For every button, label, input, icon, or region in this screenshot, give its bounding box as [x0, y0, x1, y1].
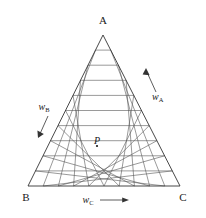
- point-label-p: P: [93, 135, 100, 146]
- axis-subscript-wc: C: [89, 199, 93, 206]
- ternary-diagram-canvas: A B C wA wB wC P: [0, 0, 206, 218]
- vertex-label-b: B: [22, 191, 29, 203]
- vertex-label-c: C: [179, 191, 186, 203]
- vertex-label-a: A: [99, 14, 107, 26]
- axis-subscript-wb: B: [45, 106, 50, 113]
- axis-subscript-wa: A: [159, 96, 164, 103]
- ternary-diagram: A B C wA wB wC P: [0, 0, 206, 218]
- diagram-background: [0, 0, 206, 218]
